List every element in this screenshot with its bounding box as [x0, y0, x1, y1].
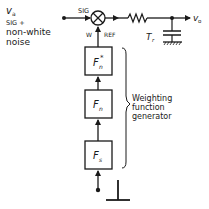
output-symbol-sub: o	[198, 18, 202, 24]
resistor-icon	[128, 14, 147, 22]
block-fs: F s	[85, 141, 112, 169]
input-label: v a SIG + non-white noise	[6, 5, 51, 47]
capacitor-icon	[163, 18, 181, 42]
ref-label: REF	[104, 31, 116, 38]
block-fn: F n	[85, 90, 112, 118]
block-sub: s	[99, 156, 102, 163]
input-line1: SIG +	[6, 19, 25, 27]
reference-trigger-icon	[106, 180, 130, 200]
block-fn-star: F n *	[85, 47, 112, 75]
time-constant-sub: r	[152, 37, 155, 43]
input-line2: non-white	[6, 27, 51, 37]
trigger-terminal	[96, 188, 100, 192]
multiplier-icon	[91, 11, 105, 25]
sig-label: SIG	[78, 7, 89, 15]
lock-in-amplifier-diagram: v a SIG + non-white noise SIG v o T	[0, 0, 209, 209]
generator-line3: generator	[132, 112, 172, 121]
block-sub: n	[99, 63, 103, 70]
w-label: W	[86, 31, 92, 38]
generator-line1: Weighting	[132, 94, 172, 103]
input-line3: noise	[6, 37, 30, 47]
generator-label: Weighting function generator	[132, 94, 172, 121]
ground-icon	[163, 42, 182, 45]
input-symbol-sub: a	[12, 10, 16, 17]
brace-icon	[122, 48, 130, 168]
block-sub: n	[99, 105, 103, 112]
block-sup: *	[100, 54, 104, 62]
generator-line2: function	[132, 103, 165, 112]
